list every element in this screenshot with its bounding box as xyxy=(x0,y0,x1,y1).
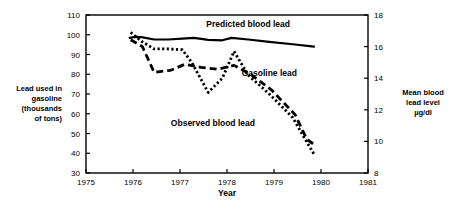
y-axis-right-title: Mean blood lead level µg/dl xyxy=(394,88,452,118)
series-annotations: Predicted blood leadGasoline leadObserve… xyxy=(171,19,297,128)
chart-plot-area: 30405060708090100110 81012141618 1975197… xyxy=(0,0,454,216)
x-axis-title: Year xyxy=(218,188,237,198)
series-line-predicted-blood-lead xyxy=(130,37,314,47)
y-axis-right-tick-label: 18 xyxy=(374,11,383,20)
x-axis-tick-label: 1976 xyxy=(124,178,142,187)
x-axis-tick-label: 1978 xyxy=(218,178,236,187)
x-axis-tick-label: 1981 xyxy=(359,178,377,187)
x-axis-tick-label: 1979 xyxy=(265,178,283,187)
y-axis-left-tick-label: 90 xyxy=(71,51,80,60)
y-axis-left-tick-label: 100 xyxy=(67,31,81,40)
y-axis-left-title-line-3: (thousands xyxy=(2,104,62,114)
y-axis-left-title-line-4: of tons) xyxy=(2,114,62,124)
y-axis-right-tick-label: 8 xyxy=(374,169,379,178)
series-label-predicted-blood-lead: Predicted blood lead xyxy=(206,19,290,29)
y-axis-right-tick-label: 10 xyxy=(374,137,383,146)
y-axis-left-tick-label: 110 xyxy=(67,11,80,20)
x-axis-tick-labels: 1975197619771978197919801981 xyxy=(77,178,377,187)
data-series-layer xyxy=(130,32,314,154)
y-axis-left-tick-label: 60 xyxy=(71,110,80,119)
y-axis-left-tick-labels: 30405060708090100110 xyxy=(67,11,81,178)
series-line-observed-blood-lead xyxy=(131,32,314,154)
y-axis-left-tick-label: 30 xyxy=(71,169,80,178)
series-label-observed-blood-lead: Observed blood lead xyxy=(171,118,255,128)
y-axis-left-tick-label: 50 xyxy=(71,130,80,139)
y-axis-right-tick-label: 12 xyxy=(374,106,383,115)
y-axis-left-title-line-2: gasoline xyxy=(2,94,62,104)
y-axis-right-tick-label: 16 xyxy=(374,43,383,52)
y-axis-left-tick-label: 70 xyxy=(71,90,80,99)
y-axis-right-tick-label: 14 xyxy=(374,74,383,83)
x-axis-tick-label: 1975 xyxy=(77,178,95,187)
x-axis-tick-label: 1980 xyxy=(312,178,330,187)
y-axis-right-title-line-3: µg/dl xyxy=(394,108,452,118)
y-axis-right-title-line-1: Mean blood xyxy=(394,88,452,98)
x-axis-tick-label: 1977 xyxy=(171,178,189,187)
chart-figure: 30405060708090100110 81012141618 1975197… xyxy=(0,0,454,216)
y-axis-left-tick-label: 40 xyxy=(71,149,80,158)
series-label-gasoline-lead: Gasoline lead xyxy=(242,68,297,78)
series-line-gasoline-lead xyxy=(131,40,314,145)
y-axis-left-title: Lead used in gasoline (thousands of tons… xyxy=(2,84,62,124)
y-axis-right-tick-labels: 81012141618 xyxy=(374,11,383,178)
y-axis-right-title-line-2: lead level xyxy=(394,98,452,108)
y-axis-left-tick-label: 80 xyxy=(71,70,80,79)
y-axis-left-title-line-1: Lead used in xyxy=(2,84,62,94)
